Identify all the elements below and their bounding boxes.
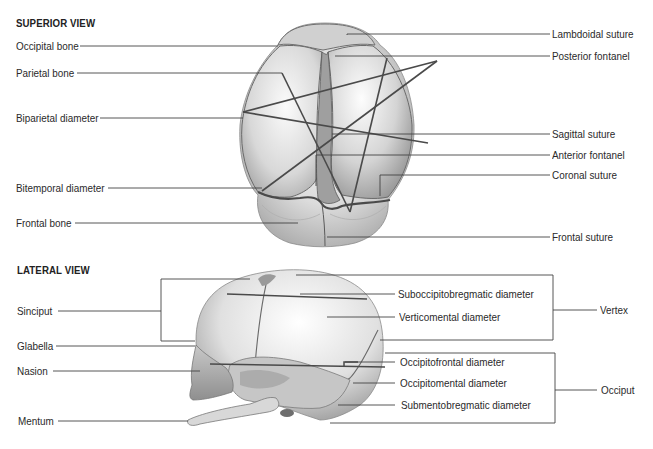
label-biparietal-diameter: Biparietal diameter xyxy=(16,112,99,124)
label-sagittal-suture: Sagittal suture xyxy=(552,128,615,140)
lateral-skull xyxy=(188,270,384,426)
label-mentum: Mentum xyxy=(18,415,54,427)
label-submentobregmatic-diameter: Submentobregmatic diameter xyxy=(401,399,531,411)
superior-view-heading: SUPERIOR VIEW xyxy=(16,17,95,29)
label-parietal-bone: Parietal bone xyxy=(16,67,74,79)
lateral-view-heading: LATERAL VIEW xyxy=(17,264,90,276)
label-lambdoidal-suture: Lambdoidal suture xyxy=(552,28,633,40)
label-occiput: Occiput xyxy=(601,384,635,396)
label-occipitofrontal-diameter: Occipitofrontal diameter xyxy=(400,356,505,368)
label-bitemporal-diameter: Bitemporal diameter xyxy=(16,182,105,194)
label-sinciput: Sinciput xyxy=(17,305,52,317)
label-frontal-bone: Frontal bone xyxy=(16,217,72,229)
label-anterior-fontanel: Anterior fontanel xyxy=(552,149,625,161)
label-nasion: Nasion xyxy=(17,365,48,377)
diagram-artwork xyxy=(0,0,653,449)
label-posterior-fontanel: Posterior fontanel xyxy=(552,50,630,62)
label-frontal-suture: Frontal suture xyxy=(552,231,613,243)
label-glabella: Glabella xyxy=(17,340,53,352)
label-occipitomental-diameter: Occipitomental diameter xyxy=(400,377,507,389)
superior-skull xyxy=(240,23,414,247)
label-verticomental-diameter: Verticomental diameter xyxy=(399,311,500,323)
label-vertex: Vertex xyxy=(600,304,628,316)
label-occipital-bone: Occipital bone xyxy=(16,40,79,52)
label-suboccipitobregmatic-diameter: Suboccipitobregmatic diameter xyxy=(398,288,534,300)
label-coronal-suture: Coronal suture xyxy=(552,169,617,181)
